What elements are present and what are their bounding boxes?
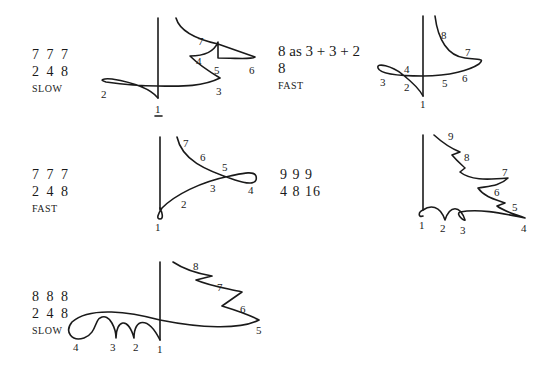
svg-text:2: 2: [181, 198, 187, 210]
svg-text:6: 6: [200, 151, 206, 163]
svg-text:3: 3: [380, 76, 386, 88]
svg-text:1: 1: [420, 98, 426, 110]
diagram-pattern-2: 8 7 4 3 2 5 6 1: [378, 16, 482, 110]
svg-text:3: 3: [210, 182, 216, 194]
conducting-diagrams: 7 4 5 6 3 2 1 8 7 4 3 2 5 6 1 7 6 5 4 3 …: [0, 0, 555, 370]
svg-text:3: 3: [110, 341, 116, 353]
diagram-pattern-5: 8 7 6 5 4 3 2 1: [69, 260, 262, 355]
svg-text:5: 5: [256, 324, 262, 336]
svg-text:4: 4: [248, 184, 254, 196]
svg-text:1: 1: [419, 219, 425, 231]
svg-text:5: 5: [512, 201, 518, 213]
svg-text:2: 2: [133, 341, 139, 353]
svg-text:1: 1: [155, 221, 161, 233]
svg-text:2: 2: [404, 81, 410, 93]
svg-text:7: 7: [465, 46, 471, 58]
svg-text:8: 8: [193, 260, 199, 272]
svg-text:7: 7: [198, 35, 204, 47]
svg-text:5: 5: [442, 77, 448, 89]
svg-text:7: 7: [217, 281, 223, 293]
svg-text:2: 2: [440, 222, 446, 234]
svg-text:7: 7: [502, 166, 508, 178]
diagram-pattern-3: 7 6 5 4 3 2 1: [155, 137, 256, 233]
diagram-pattern-1: 7 4 5 6 3 2 1: [101, 18, 255, 116]
svg-text:8: 8: [464, 151, 470, 163]
svg-text:7: 7: [183, 137, 189, 149]
svg-text:6: 6: [462, 72, 468, 84]
svg-text:1: 1: [157, 343, 163, 355]
svg-text:2: 2: [101, 88, 107, 100]
svg-text:6: 6: [494, 186, 500, 198]
svg-text:3: 3: [216, 85, 222, 97]
svg-text:5: 5: [222, 161, 228, 173]
svg-text:9: 9: [448, 130, 454, 142]
svg-text:8: 8: [441, 29, 447, 41]
svg-text:4: 4: [521, 222, 527, 234]
svg-text:4: 4: [404, 63, 410, 75]
svg-text:4: 4: [73, 341, 79, 353]
svg-text:3: 3: [460, 224, 466, 236]
svg-text:1: 1: [155, 103, 161, 115]
svg-text:5: 5: [214, 64, 220, 76]
svg-text:6: 6: [240, 303, 246, 315]
svg-text:6: 6: [249, 64, 255, 76]
diagram-pattern-4: 9 8 7 6 5 4 1 2 3: [419, 130, 527, 236]
svg-text:4: 4: [196, 55, 202, 67]
